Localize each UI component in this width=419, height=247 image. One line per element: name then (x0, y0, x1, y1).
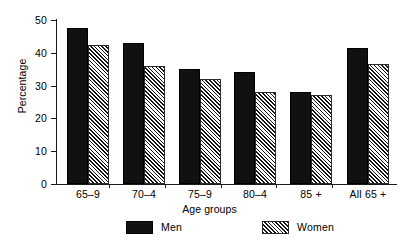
legend-label-women: Women (297, 221, 334, 233)
legend-label-men: Men (161, 221, 182, 233)
bar-men-80-4 (234, 72, 255, 184)
bar-women-all-65-plus (368, 64, 389, 184)
legend-swatch-men-icon (126, 221, 153, 234)
x-axis-line (56, 184, 397, 185)
bar-women-65-9 (88, 45, 109, 184)
bar-men-85-plus (290, 92, 311, 184)
bar-women-85-plus (311, 95, 332, 184)
y-tick-label-30: 30 (7, 81, 47, 91)
legend-entry-women: Women (262, 219, 334, 235)
y-tick-label-50: 50 (7, 15, 47, 25)
chart-legend: Men Women (0, 219, 419, 241)
bar-men-65-9 (67, 28, 88, 184)
bar-men-70-4 (123, 43, 144, 184)
y-tick-label-0: 0 (7, 179, 47, 189)
legend-swatch-women-icon (262, 221, 289, 234)
plot-area (57, 20, 396, 184)
bar-women-80-4 (255, 92, 276, 184)
grouped-bar-chart: Percentage 50 40 30 20 10 0 65–9 70–4 75… (0, 0, 419, 247)
bar-women-75-9 (200, 79, 221, 184)
bar-men-all-65-plus (347, 48, 368, 184)
bar-men-75-9 (179, 69, 200, 184)
legend-entry-men: Men (126, 219, 182, 235)
bar-women-70-4 (144, 66, 165, 184)
x-label-all-65-plus: All 65 + (328, 188, 408, 200)
y-tick-label-10: 10 (7, 146, 47, 156)
y-tick-label-20: 20 (7, 113, 47, 123)
x-axis-title: Age groups (0, 203, 419, 215)
y-tick-label-40: 40 (7, 48, 47, 58)
